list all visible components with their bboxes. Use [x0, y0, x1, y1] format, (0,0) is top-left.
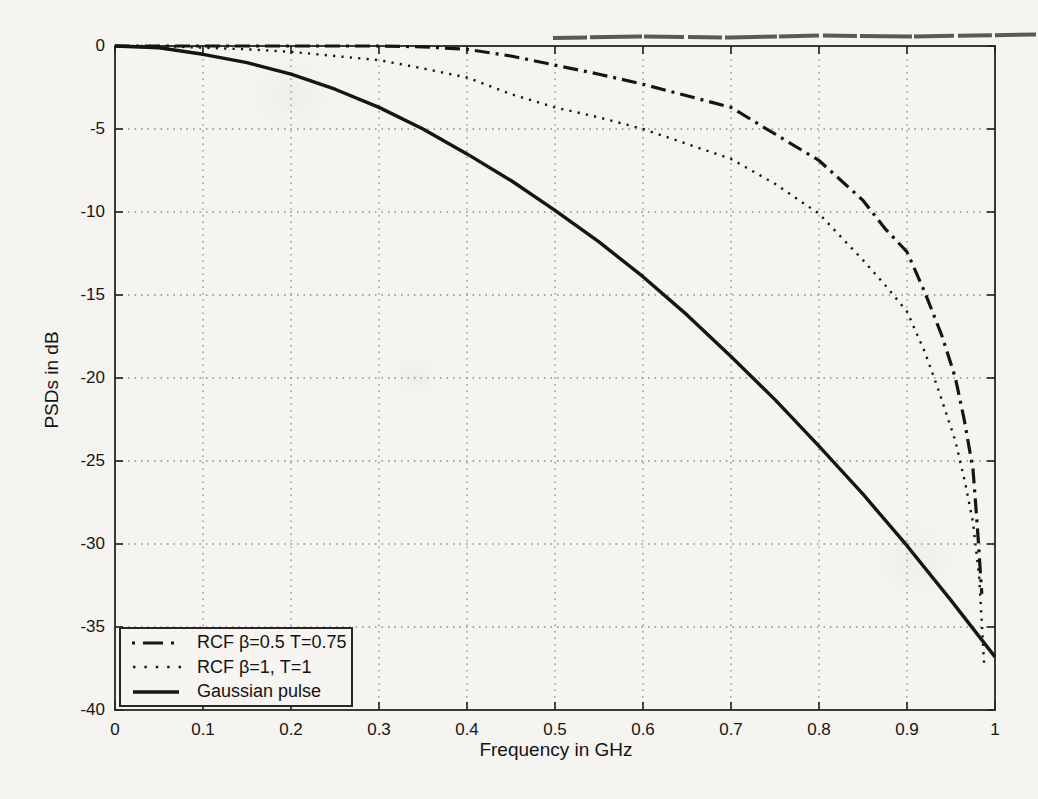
legend-item-rcf-beta-0-5: RCF β=0.5 T=0.75: [130, 632, 351, 654]
y-tick-label: -5: [43, 119, 105, 139]
legend-label: RCF β=0.5 T=0.75: [197, 632, 346, 653]
curve-rcf-beta-0-5-t-0-75: [115, 46, 982, 594]
x-tick-label: 0.8: [807, 720, 831, 740]
y-tick-label: -15: [43, 285, 105, 305]
x-tick-label: 0.2: [279, 720, 303, 740]
legend-item-rcf-beta-1: RCF β=1, T=1: [130, 656, 351, 678]
y-tick-label: 0: [43, 36, 105, 56]
x-tick-label: 0.4: [455, 720, 479, 740]
x-tick-label: 1: [990, 720, 999, 740]
dash-dot-line-sample: [130, 637, 188, 649]
solid-line-sample: [130, 686, 188, 698]
scanned-figure-page: PSDs in dB Frequency in GHz 00.10.20.30.…: [0, 0, 1038, 799]
legend-item-gaussian-pulse: Gaussian pulse: [130, 681, 351, 703]
x-tick-label: 0: [110, 720, 119, 740]
y-tick-label: -10: [43, 202, 105, 222]
x-tick-label: 0.9: [895, 720, 919, 740]
legend: RCF β=0.5 T=0.75 RCF β=1, T=1 Gaussian p…: [119, 627, 353, 707]
scan-streak: [553, 35, 1036, 39]
x-tick-label: 0.6: [631, 720, 655, 740]
y-tick-label: -40: [43, 700, 105, 720]
y-tick-label: -20: [43, 368, 105, 388]
x-tick-label: 0.1: [191, 720, 215, 740]
legend-label: RCF β=1, T=1: [197, 657, 311, 678]
y-tick-label: -25: [43, 451, 105, 471]
y-tick-label: -35: [43, 617, 105, 637]
curve-rcf-beta-1-t-1: [115, 46, 984, 669]
x-tick-label: 0.3: [367, 720, 391, 740]
dotted-line-sample: [130, 661, 188, 673]
y-tick-label: -30: [43, 534, 105, 554]
x-axis-label: Frequency in GHz: [406, 739, 706, 761]
x-tick-label: 0.7: [719, 720, 743, 740]
legend-label: Gaussian pulse: [197, 681, 321, 702]
x-tick-label: 0.5: [543, 720, 567, 740]
